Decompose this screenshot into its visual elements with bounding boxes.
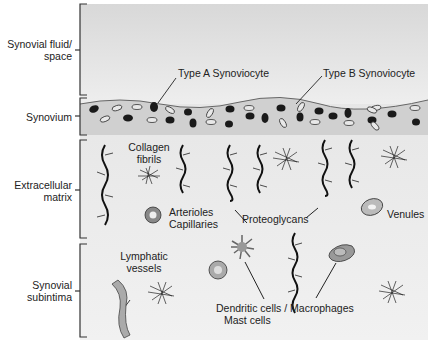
layer-label-fluid: Synovial fluid/space xyxy=(0,38,72,62)
label-type-b: Type B Synoviocyte xyxy=(323,67,415,79)
label-mast: Mast cells xyxy=(224,314,271,326)
label-lymphatic: Lymphaticvessels xyxy=(116,250,172,274)
label-type-a: Type A Synoviocyte xyxy=(178,67,269,79)
layer-label-synovium: Synovium xyxy=(0,111,72,123)
label-collagen: Collagenfibrils xyxy=(124,141,174,165)
label-dendritic: Dendritic cells / Macrophages xyxy=(216,302,354,314)
label-arterioles: ArteriolesCapillaries xyxy=(169,206,218,230)
layer-label-subintima: Synovialsubintima xyxy=(0,279,72,303)
fluid-space xyxy=(80,4,428,104)
layer-label-ecm: Extracellularmatrix xyxy=(0,179,72,203)
label-venules: Venules xyxy=(387,208,424,220)
label-proteoglycans: Proteoglycans xyxy=(242,213,309,225)
